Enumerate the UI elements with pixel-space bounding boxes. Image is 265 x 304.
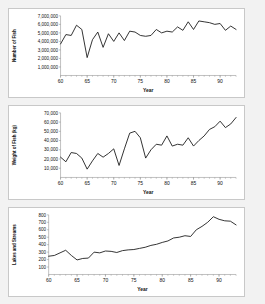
x-tick-label: 90 — [217, 79, 223, 84]
x-tick-label: 65 — [84, 181, 90, 186]
x-tick-label: 85 — [191, 79, 197, 84]
x-tick-label: 85 — [191, 181, 197, 186]
line-chart-lakes-and-streams: 10020030040050060070080060657075808590Ye… — [9, 208, 244, 296]
y-tick-label: 400 — [38, 242, 46, 247]
y-tick-label: 7,000,000 — [38, 14, 59, 19]
data-line — [49, 217, 236, 260]
x-tick-label: 65 — [74, 278, 80, 283]
y-tick-label: 300 — [38, 250, 46, 255]
chart-content: 1,000,0002,000,0003,000,0004,000,0005,00… — [12, 14, 236, 93]
y-tick-label: 700 — [38, 220, 46, 225]
chart-panel-number-of-fish: 1,000,0002,000,0003,000,0004,000,0005,00… — [8, 8, 245, 98]
y-axis-title: Lakes and Streams — [12, 224, 17, 265]
line-chart-number-of-fish: 1,000,0002,000,0003,000,0004,000,0005,00… — [9, 9, 244, 97]
x-tick-label: 65 — [84, 79, 90, 84]
y-tick-label: 50,000 — [44, 129, 58, 134]
x-tick-label: 80 — [164, 181, 170, 186]
y-tick-label: 5,000,000 — [38, 31, 59, 36]
x-tick-label: 75 — [138, 79, 144, 84]
y-tick-label: 200 — [38, 257, 46, 262]
chart-panel-lakes-and-streams: 10020030040050060070080060657075808590Ye… — [8, 207, 245, 297]
y-tick-label: 800 — [38, 213, 46, 218]
y-tick-label: 500 — [38, 235, 46, 240]
y-tick-label: 60,000 — [44, 120, 58, 125]
y-tick-label: 100 — [38, 265, 46, 270]
x-tick-label: 60 — [58, 79, 64, 84]
chart-content: 10,00020,00030,00040,00050,00060,00070,0… — [12, 111, 236, 195]
x-axis-title: Year — [143, 190, 154, 195]
x-tick-label: 90 — [217, 181, 223, 186]
chart-content: 10020030040050060070080060657075808590Ye… — [12, 213, 236, 292]
x-tick-label: 80 — [164, 79, 170, 84]
y-tick-label: 20,000 — [44, 157, 58, 162]
x-tick-label: 85 — [188, 278, 194, 283]
y-tick-label: 10,000 — [44, 166, 58, 171]
x-tick-label: 75 — [138, 181, 144, 186]
x-tick-label: 70 — [103, 278, 109, 283]
y-tick-label: 4,000,000 — [38, 39, 59, 44]
x-tick-label: 60 — [46, 278, 52, 283]
y-tick-label: 6,000,000 — [38, 22, 59, 27]
chart-panel-weight-of-fish: 10,00020,00030,00040,00050,00060,00070,0… — [8, 105, 245, 200]
y-tick-label: 3,000,000 — [38, 48, 59, 53]
data-line — [61, 117, 237, 169]
x-tick-label: 90 — [216, 278, 222, 283]
x-axis-title: Year — [137, 287, 148, 292]
y-tick-label: 30,000 — [44, 147, 58, 152]
y-axis-title: Weight of Fish (kg) — [12, 125, 17, 166]
y-tick-label: 70,000 — [44, 111, 58, 116]
y-tick-label: 40,000 — [44, 138, 58, 143]
y-tick-label: 1,000,000 — [38, 65, 59, 70]
plot-area-lakes-and-streams: 10020030040050060070080060657075808590Ye… — [9, 208, 244, 296]
x-tick-label: 75 — [131, 278, 137, 283]
line-chart-weight-of-fish: 10,00020,00030,00040,00050,00060,00070,0… — [9, 106, 244, 199]
x-tick-label: 70 — [111, 79, 117, 84]
x-axis-title: Year — [143, 88, 154, 93]
data-line — [61, 21, 237, 58]
x-tick-label: 80 — [159, 278, 165, 283]
y-axis-title: Number of Fish — [12, 29, 17, 62]
plot-area-weight-of-fish: 10,00020,00030,00040,00050,00060,00070,0… — [9, 106, 244, 199]
y-tick-label: 2,000,000 — [38, 56, 59, 61]
figure-page: 1,000,0002,000,0003,000,0004,000,0005,00… — [0, 0, 265, 304]
y-tick-label: 600 — [38, 227, 46, 232]
plot-area-number-of-fish: 1,000,0002,000,0003,000,0004,000,0005,00… — [9, 9, 244, 97]
x-tick-label: 60 — [58, 181, 64, 186]
x-tick-label: 70 — [111, 181, 117, 186]
